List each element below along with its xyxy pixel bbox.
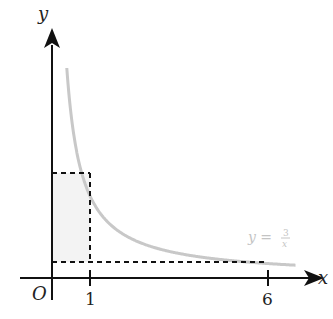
y-axis-label: y [37, 3, 49, 24]
x-tick-label-6: 6 [262, 289, 273, 309]
svg-text:x: x [282, 239, 287, 249]
svg-text:3: 3 [283, 228, 289, 238]
shaded-region [52, 173, 90, 262]
origin-label: O [32, 283, 47, 304]
x-tick-label-1: 1 [85, 289, 96, 309]
x-axis-label: x [318, 267, 328, 288]
svg-text:y =: y = [247, 229, 272, 245]
curve-label: y = 3 x [247, 228, 290, 249]
chart-canvas: y x O 1 6 y = 3 x [0, 0, 333, 319]
